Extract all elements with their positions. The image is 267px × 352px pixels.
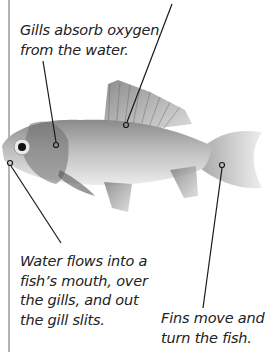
anal-fin — [170, 166, 198, 198]
tail-fin — [200, 131, 262, 188]
pelvic-fin — [104, 182, 132, 212]
pointer-fins — [203, 168, 222, 308]
caption-fins: Fins move andturn the fish. — [161, 309, 265, 348]
caption-mouth: Water flows into afish’s mouth, overthe … — [20, 252, 148, 330]
caption-gills: Gills absorb oxygenfrom the water. — [20, 21, 159, 60]
